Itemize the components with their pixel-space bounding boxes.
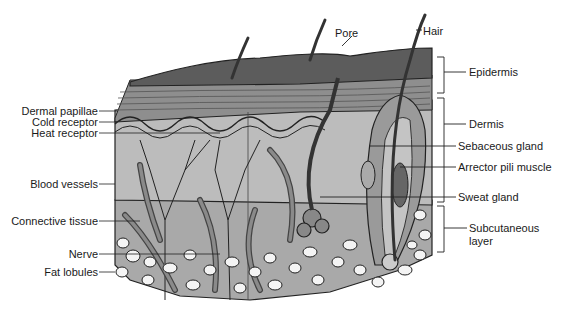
- label-hair: Hair: [423, 25, 443, 37]
- label-connective-tissue: Connective tissue: [11, 215, 98, 227]
- label-dermis: Dermis: [469, 118, 504, 130]
- label-subcutaneous-layer-line1: Subcutaneous: [469, 222, 539, 234]
- arrector-pili-muscle: [392, 163, 408, 207]
- sebaceous-gland: [361, 161, 375, 189]
- skin-surface: [130, 48, 432, 86]
- label-heat-receptor: Heat receptor: [31, 127, 98, 139]
- label-sweat-gland: Sweat gland: [458, 191, 519, 203]
- label-arrector-pili-muscle: Arrector pili muscle: [458, 161, 552, 173]
- label-epidermis: Epidermis: [469, 66, 518, 78]
- label-nerve: Nerve: [69, 248, 98, 260]
- label-sebaceous-gland: Sebaceous gland: [458, 140, 543, 152]
- label-blood-vessels: Blood vessels: [30, 178, 98, 190]
- label-pore: Pore: [335, 27, 358, 39]
- label-fat-lobules: Fat lobules: [44, 266, 98, 278]
- label-subcutaneous-layer-line2: layer: [469, 235, 493, 247]
